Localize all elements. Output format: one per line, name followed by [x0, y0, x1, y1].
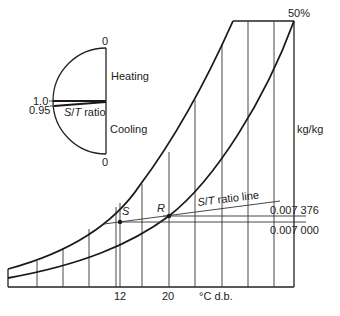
x-tick-20: 20 [162, 290, 174, 302]
point-r [167, 214, 171, 218]
protractor-top-zero: 0 [102, 35, 108, 47]
heating-label: Heating [111, 70, 149, 82]
dry-bulb-gridlines [37, 21, 274, 287]
st-ratio-line [104, 201, 280, 224]
rh-50-curve [8, 21, 294, 278]
moisture-s-value: 0.007 000 [270, 224, 319, 236]
saturation-curve [8, 21, 233, 269]
protractor-bottom-zero: 0 [102, 156, 108, 168]
moisture-r-value: 0.007 376 [270, 204, 319, 216]
psychrometric-chart: 0 0 Heating Cooling 1.0 0.95 S/T ratio [0, 0, 340, 316]
y-unit-label: kg/kg [297, 123, 323, 135]
st-ratio-label: S/T ratio [64, 106, 106, 118]
st-ratio-line-label-rest: ratio line [214, 189, 260, 206]
rh-50-label: 50% [288, 7, 310, 19]
cooling-label: Cooling [110, 123, 147, 135]
point-s [118, 220, 122, 224]
chart-frame [8, 21, 294, 287]
x-unit-label: °C d.b. [199, 290, 233, 302]
point-r-label: R [157, 202, 165, 214]
ratio-095-label: 0.95 [29, 104, 50, 116]
x-tick-12: 12 [114, 290, 126, 302]
humidity-curves [8, 21, 294, 278]
point-s-label: S [122, 205, 130, 217]
st-ratio-label-rest: ratio [81, 106, 105, 118]
st-ratio-protractor: 0 0 Heating Cooling 1.0 0.95 S/T ratio [29, 35, 149, 168]
